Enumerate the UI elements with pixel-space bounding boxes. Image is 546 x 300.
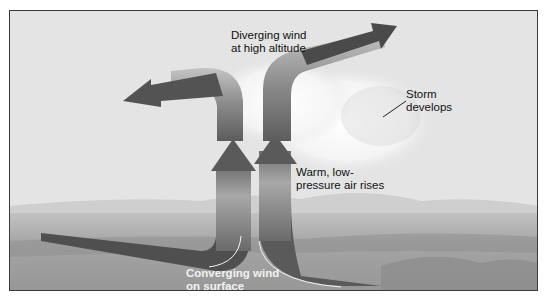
label-storm-line2: develops (406, 101, 452, 114)
diagram-frame: Diverging wind at high altitude Storm de… (9, 10, 538, 291)
label-storm-develops: Storm develops (406, 88, 452, 114)
label-warm-line1: Warm, low- (296, 166, 384, 179)
label-diverging-line2: at high altitude (231, 42, 306, 55)
label-diverging-line1: Diverging wind (231, 29, 306, 42)
label-diverging-wind: Diverging wind at high altitude (231, 29, 306, 55)
label-storm-line1: Storm (406, 88, 452, 101)
label-converging-line1: Converging wind (186, 267, 279, 280)
label-converging-wind: Converging wind on surface (186, 267, 279, 291)
label-warm-line2: pressure air rises (296, 179, 384, 192)
label-converging-line2: on surface (186, 280, 279, 291)
label-warm-air-rises: Warm, low- pressure air rises (296, 166, 384, 192)
